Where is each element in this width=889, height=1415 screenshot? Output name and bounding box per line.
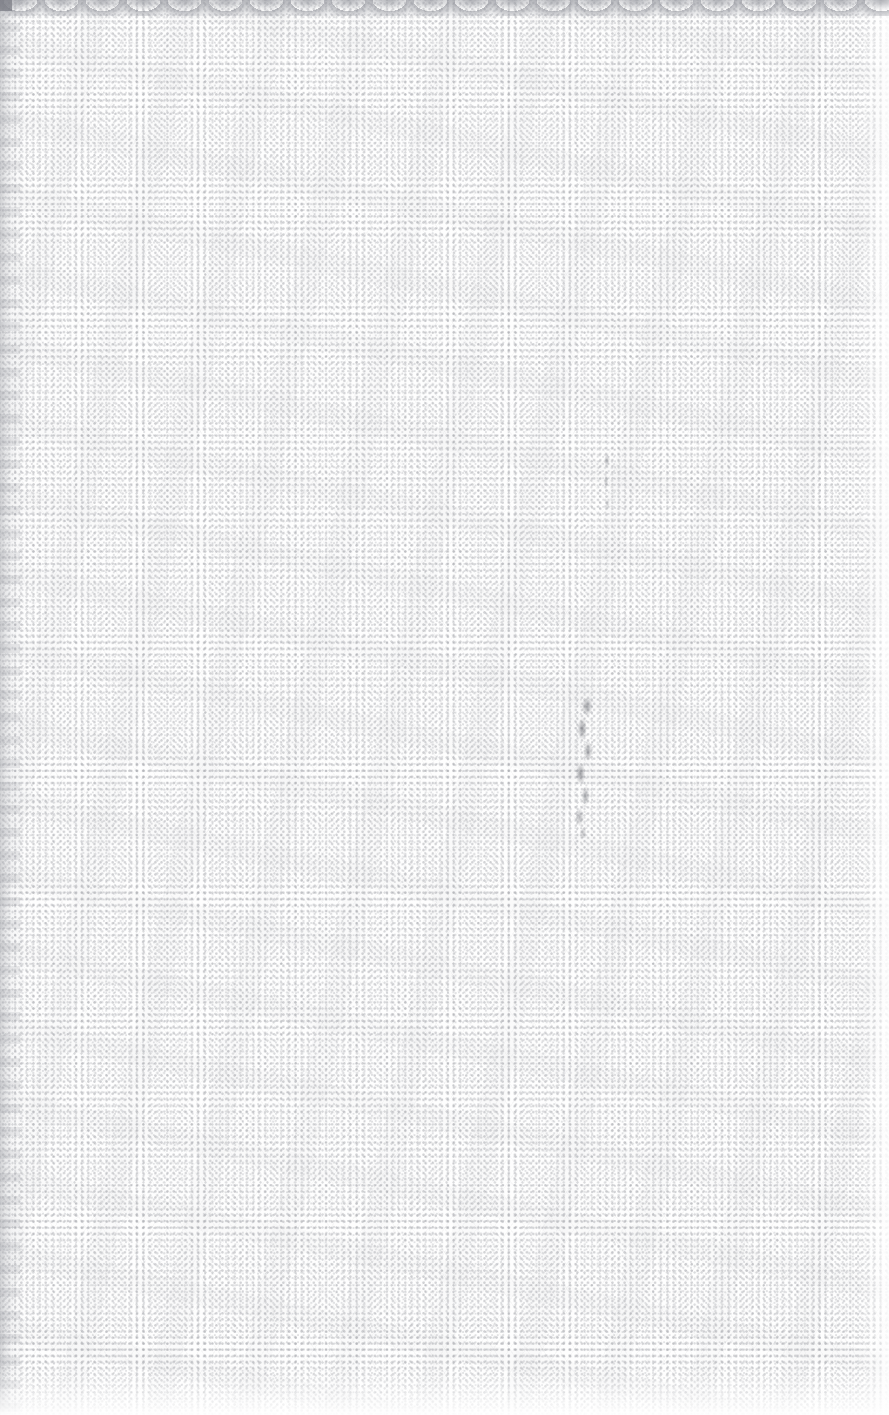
paper-background [0, 0, 889, 1415]
scanned-page [0, 0, 889, 1415]
